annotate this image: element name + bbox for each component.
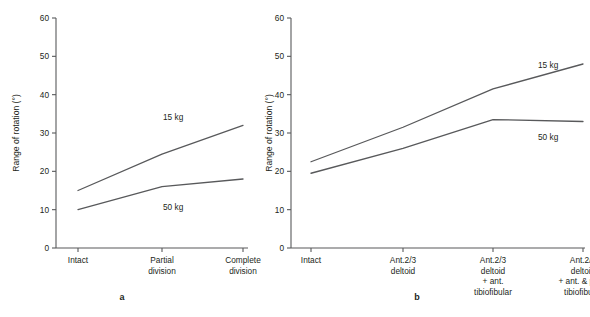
x-tick-label: Ant.2/3 [570, 255, 590, 265]
x-axis-tick-labels-b: IntactAnt.2/3deltoidAnt.2/3deltoid+ ant.… [301, 255, 590, 297]
x-axis-ticks-b [311, 248, 583, 252]
y-axis-ticks-b [287, 18, 291, 248]
chart-panel-a: 0102030405060 IntactPartialdivisionCompl… [0, 0, 295, 317]
panel-label-a: a [119, 292, 125, 302]
x-tick-label: Ant.2/3 [480, 255, 507, 265]
y-axis-tick-labels-b: 0102030405060 [275, 13, 285, 253]
y-tick-label: 60 [40, 13, 50, 23]
x-tick-label: Intact [68, 255, 89, 265]
y-tick-label: 50 [40, 51, 50, 61]
series-line-15-kg [311, 64, 583, 162]
x-tick-label: tibiofibular [564, 287, 590, 297]
y-axis-tick-labels-a: 0102030405060 [40, 13, 50, 253]
y-tick-label: 0 [279, 243, 284, 253]
x-tick-label: Ant.2/3 [390, 255, 417, 265]
y-tick-label: 20 [275, 166, 285, 176]
x-tick-label: + ant. & post. [558, 276, 590, 286]
panel-a-svg: 0102030405060 IntactPartialdivisionCompl… [0, 0, 295, 317]
x-axis-tick-labels-a: IntactPartialdivisionCompletedivision [68, 255, 261, 276]
series-label-15-kg: 15 kg [163, 112, 184, 122]
y-tick-label: 40 [275, 90, 285, 100]
series-line-50-kg [78, 179, 243, 210]
x-tick-label: + ant. [483, 276, 504, 286]
x-tick-label: tibiofibular [474, 287, 512, 297]
x-tick-label: deltoid [391, 266, 416, 276]
series-labels-a: 15 kg50 kg [163, 112, 184, 212]
y-tick-label: 30 [40, 128, 50, 138]
y-axis-title-a: Range of rotation (°) [11, 94, 21, 172]
x-axis-ticks-a [78, 248, 243, 252]
series-label-50-kg: 50 kg [163, 202, 184, 212]
chart-panel-b: 0102030405060 IntactAnt.2/3deltoidAnt.2/… [255, 0, 590, 317]
y-tick-label: 30 [275, 128, 285, 138]
y-tick-label: 60 [275, 13, 285, 23]
x-tick-label: division [148, 266, 176, 276]
panel-b-svg: 0102030405060 IntactAnt.2/3deltoidAnt.2/… [255, 0, 590, 317]
y-tick-label: 20 [40, 166, 50, 176]
x-tick-label: division [229, 266, 257, 276]
figure-two-line-charts: 0102030405060 IntactPartialdivisionCompl… [0, 0, 590, 317]
series-labels-b: 15 kg50 kg [538, 60, 559, 142]
series-label-50-kg: 50 kg [538, 132, 559, 142]
series-lines-a [78, 125, 243, 209]
panel-label-b: b [414, 292, 420, 302]
y-axis-title-b: Range of rotation (°) [264, 94, 274, 172]
y-tick-label: 40 [40, 90, 50, 100]
y-tick-label: 10 [275, 205, 285, 215]
y-tick-label: 0 [44, 243, 49, 253]
y-tick-label: 50 [275, 51, 285, 61]
x-tick-label: Partial [150, 255, 174, 265]
y-axis-ticks-a [52, 18, 56, 248]
y-tick-label: 10 [40, 205, 50, 215]
x-tick-label: Intact [301, 255, 322, 265]
x-tick-label: deltoid [571, 266, 590, 276]
x-tick-label: deltoid [481, 266, 506, 276]
series-lines-b [311, 64, 583, 173]
series-label-15-kg: 15 kg [538, 60, 559, 70]
